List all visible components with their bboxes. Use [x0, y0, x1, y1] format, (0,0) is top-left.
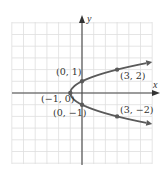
point-label-0-1: (0, 1) — [56, 66, 82, 77]
y-axis-arrow-icon — [79, 15, 85, 23]
x-axis — [12, 90, 160, 96]
point-label-3-neg2: (3, −2) — [120, 104, 154, 115]
curve-arrow-lower-icon — [146, 120, 152, 126]
point-label-0-neg1: (0, −1) — [53, 107, 87, 118]
x-axis-arrow-icon — [152, 90, 160, 96]
parabola-graph: x y (0, 1) (3, 2) (−1, 0) (0, −1) (3, −2… — [0, 0, 167, 175]
point-marker — [80, 79, 84, 83]
curve-arrow-upper-icon — [146, 60, 152, 66]
point-marker — [115, 67, 119, 71]
y-axis — [79, 15, 85, 165]
x-axis-label: x — [152, 79, 158, 90]
point-label-3-2: (3, 2) — [120, 70, 146, 81]
point-marker — [115, 114, 119, 118]
y-axis-label: y — [86, 13, 92, 24]
point-label-neg1-0: (−1, 0) — [41, 93, 75, 104]
